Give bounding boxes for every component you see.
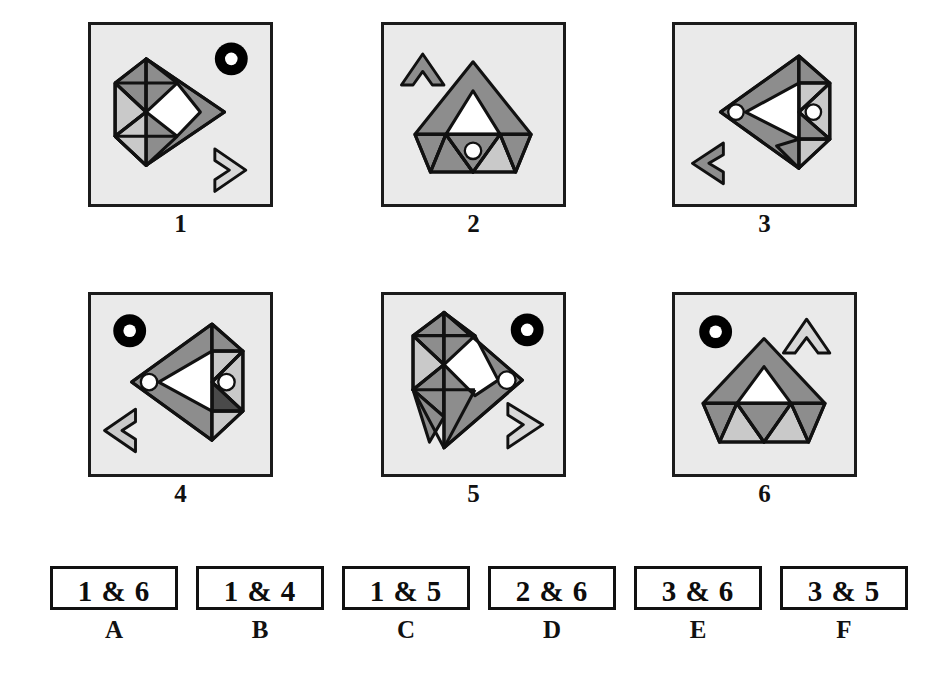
answer-option-d-letter: D — [488, 616, 616, 644]
chevron-up-icon — [401, 54, 444, 85]
figure-4-label: 4 — [88, 480, 273, 508]
figure-panel-4[interactable] — [88, 292, 273, 477]
figure-6-label: 6 — [672, 480, 857, 508]
eye-dot-icon — [141, 374, 157, 390]
black-ring-icon — [699, 315, 732, 348]
chevron-left-icon — [692, 143, 723, 184]
black-ring-icon — [113, 314, 146, 347]
figure-panel-3[interactable] — [672, 22, 857, 207]
figure-2-label: 2 — [381, 210, 566, 238]
eye-dot-icon — [465, 143, 481, 159]
answer-option-f[interactable]: 3 & 5 F — [780, 566, 908, 644]
figure-6-graphic — [675, 295, 854, 474]
figure-panel-2[interactable] — [381, 22, 566, 207]
answer-option-b-letter: B — [196, 616, 324, 644]
answer-option-e-letter: E — [634, 616, 762, 644]
figure-3-label: 3 — [672, 210, 857, 238]
inner-dot-icon — [218, 374, 234, 390]
answer-option-d-text[interactable]: 2 & 6 — [488, 566, 616, 610]
answer-option-c[interactable]: 1 & 5 C — [342, 566, 470, 644]
answer-option-f-letter: F — [780, 616, 908, 644]
chevron-right-icon — [215, 149, 246, 192]
answer-option-a-letter: A — [50, 616, 178, 644]
figure-panel-1[interactable] — [88, 22, 273, 207]
figure-5-label: 5 — [381, 480, 566, 508]
answer-option-f-text[interactable]: 3 & 5 — [780, 566, 908, 610]
inner-dot-icon — [806, 104, 821, 119]
answer-option-a-text[interactable]: 1 & 6 — [50, 566, 178, 610]
figure-1-graphic — [91, 25, 270, 204]
figure-1-label: 1 — [88, 210, 273, 238]
eye-dot-icon — [498, 371, 515, 388]
answer-option-a[interactable]: 1 & 6 A — [50, 566, 178, 644]
figure-5-graphic — [384, 295, 563, 474]
figure-2-graphic — [384, 25, 563, 204]
answer-option-e[interactable]: 3 & 6 E — [634, 566, 762, 644]
figure-panel-6[interactable] — [672, 292, 857, 477]
chevron-up-icon — [783, 319, 829, 353]
answer-option-c-text[interactable]: 1 & 5 — [342, 566, 470, 610]
chevron-right-icon — [508, 403, 543, 448]
answer-option-b[interactable]: 1 & 4 B — [196, 566, 324, 644]
eye-dot-icon — [728, 104, 743, 119]
answer-option-d[interactable]: 2 & 6 D — [488, 566, 616, 644]
black-ring-icon — [215, 42, 248, 75]
black-ring-icon — [511, 313, 544, 346]
answer-option-b-text[interactable]: 1 & 4 — [196, 566, 324, 610]
answer-option-c-letter: C — [342, 616, 470, 644]
answer-option-e-text[interactable]: 3 & 6 — [634, 566, 762, 610]
answer-options-row: 1 & 6 A 1 & 4 B 1 & 5 C 2 & 6 D 3 & 6 E … — [0, 566, 949, 666]
chevron-left-icon — [105, 409, 136, 452]
figure-panel-5[interactable] — [381, 292, 566, 477]
figure-3-graphic — [675, 25, 854, 204]
figure-4-graphic — [91, 295, 270, 474]
